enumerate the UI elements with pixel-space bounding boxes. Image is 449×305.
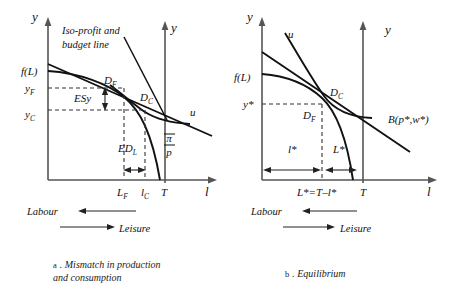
panel-a-x-axis [48, 177, 217, 184]
panel-a-edl-measure [123, 167, 146, 173]
panel-b-x-axis [262, 177, 437, 184]
panel-b-budget-label: B(p*,w*) [388, 113, 429, 126]
panel-a-y-axis-right [162, 21, 169, 183]
panel-a-caption-line1: a. Mismatch in production [53, 259, 161, 270]
panel-b-lstar-measure [263, 167, 321, 173]
panel-a-tick-lC: lC [141, 186, 150, 201]
panel-b-budget-line [262, 52, 410, 152]
panel-b-tick-identity: L*=T–l* [296, 186, 337, 198]
panel-a-y-axis-left [45, 17, 52, 180]
panel-a-x-axis-label: l [205, 184, 209, 199]
panel-a-isoprofit-caption-line1: Iso-profit and [61, 25, 120, 36]
panel-a-point-DC-label: DC [139, 91, 154, 106]
economics-figure: y l y [0, 0, 449, 305]
panel-b-y-axis-left [259, 17, 266, 180]
panel-b-y-axis-right [360, 21, 367, 183]
panel-a-p-denominator: p [165, 146, 172, 158]
panel-a-isoprofit-caption-line2: budget line [62, 39, 109, 50]
panel-a-fL-label: f(L) [21, 65, 38, 78]
panel-b-fL-label: f(L) [234, 71, 251, 84]
panel-a-labour-label: Labour [26, 206, 59, 217]
panel-a-u-label: u [190, 106, 196, 118]
panel-b: y l y DC DF u [234, 9, 437, 279]
panel-b-point-DF-label: DF [302, 109, 316, 124]
panel-a-tick-LF: LF [116, 186, 128, 201]
panel-a: y l y [21, 9, 217, 283]
panel-b-leisure-label: Leisure [339, 223, 371, 234]
panel-b-y-axis-left-label: y [245, 9, 253, 24]
panel-b-ystar-label: y* [242, 98, 254, 110]
panel-a-yC-label: yC [24, 108, 36, 123]
panel-b-y-axis-right-label: y [383, 22, 391, 37]
panel-b-labour-label: Labour [250, 206, 283, 217]
panel-b-u-label: u [288, 28, 294, 40]
figure-root: y l y [0, 0, 449, 305]
panel-b-production-curve [262, 74, 353, 180]
panel-a-caption-line2: and consumption [53, 272, 122, 283]
panel-b-caption-line1: b. Equilibrium [285, 268, 346, 279]
panel-a-pi-over-p: π p [164, 132, 175, 158]
panel-a-y-axis-left-label: y [30, 9, 38, 24]
panel-a-edl-label: EDL [117, 142, 137, 157]
panel-a-esy-label: ESy [73, 92, 91, 104]
panel-b-Lstar-label: L* [332, 143, 345, 155]
panel-a-production-curve [48, 71, 160, 180]
panel-a-yF-label: yF [24, 82, 35, 97]
panel-a-tick-T: T [161, 186, 168, 198]
panel-b-tick-T: T [360, 186, 367, 198]
panel-b-x-axis-label: l [427, 184, 431, 199]
panel-a-leisure-label: Leisure [118, 223, 150, 234]
panel-a-y-axis-right-label: y [169, 20, 177, 35]
panel-b-lstar-label: l* [288, 143, 297, 155]
